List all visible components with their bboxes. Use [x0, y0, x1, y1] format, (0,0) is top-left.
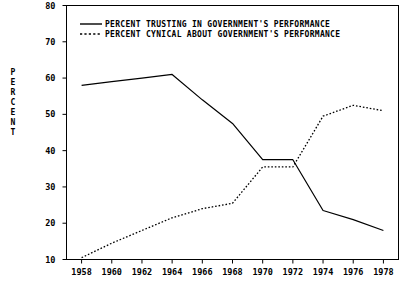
data-series-group [82, 74, 384, 257]
legend-key-lines [80, 24, 102, 34]
series-line-cynical [82, 105, 384, 257]
series-line-trusting [82, 74, 384, 230]
chart-figure: P E R C E N T 80 70 60 50 40 30 20 10 19… [0, 0, 407, 287]
plot-frame [67, 6, 399, 260]
plot-area [0, 0, 407, 287]
x-axis-ticks [82, 260, 384, 264]
y-axis-ticks [63, 6, 67, 260]
